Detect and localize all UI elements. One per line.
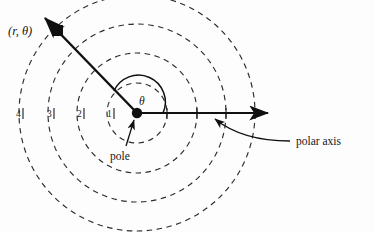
tick-label-4: 4	[16, 109, 21, 119]
polar-coordinate-diagram: 4 3 2 1 (r, θ) θ pole polar axis	[0, 0, 375, 233]
polar-diagram-figure: 4 3 2 1 (r, θ) θ pole polar axis	[0, 0, 375, 233]
point-marker-square	[52, 25, 63, 36]
pole-label: pole	[110, 150, 130, 163]
point-label: (r, θ)	[8, 24, 32, 38]
tick-label-1: 1	[107, 109, 112, 119]
tick-label-3: 3	[47, 109, 52, 119]
pole-point-dot	[132, 108, 142, 118]
polar-axis-label: polar axis	[296, 135, 342, 148]
theta-label: θ	[139, 95, 145, 107]
tick-label-2: 2	[77, 109, 82, 119]
